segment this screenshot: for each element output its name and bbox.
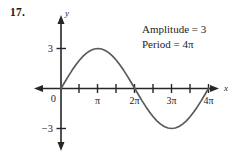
period-annotation: Period = 4π — [142, 38, 194, 50]
graph-figure: Amplitude = 3 Period = 4π y x 0 3 −3 π 2… — [0, 0, 242, 156]
x-tick-label-pi: π — [95, 95, 100, 106]
y-axis-bottom-arrowhead — [58, 142, 65, 151]
x-tick-label-3pi: 3π — [166, 95, 176, 106]
x-axis-label: x — [223, 83, 228, 93]
y-tick-label-3: 3 — [48, 43, 53, 54]
x-tick-label-4pi: 4π — [203, 95, 213, 106]
x-axis-right-arrowhead — [210, 85, 219, 92]
amplitude-annotation: Amplitude = 3 — [142, 23, 207, 35]
x-tick-label-2pi: 2π — [129, 95, 139, 106]
x-axis-left-arrowhead — [34, 85, 43, 92]
y-axis-label: y — [64, 8, 69, 18]
y-axis-top-arrowhead — [58, 15, 65, 24]
figure-page: 17. — [0, 0, 242, 156]
origin-label: 0 — [51, 93, 56, 104]
y-tick-label-negative-3: −3 — [42, 123, 53, 134]
